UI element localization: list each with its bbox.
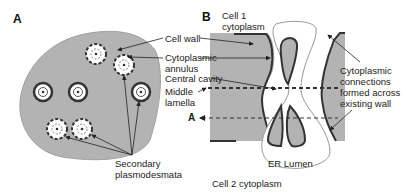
label-cytoplasmic-connections: Cytoplasmic connections formed across ex… — [340, 65, 400, 109]
label-line: plasmodesmata — [115, 169, 182, 180]
secondary-plasmodesma — [86, 44, 106, 64]
label-cell-1-cytoplasm: Cell 1 cytoplasm — [222, 10, 265, 32]
label-line: Cytoplasmic — [165, 52, 217, 63]
label-line: existing wall — [340, 98, 400, 109]
label-section-a: A — [188, 112, 195, 123]
label-line: lamella — [165, 97, 195, 108]
panel-a-letter: A — [13, 12, 22, 26]
label-cell-wall: Cell wall — [165, 33, 200, 44]
secondary-plasmodesma — [72, 119, 92, 139]
label-line: formed across — [340, 87, 400, 98]
panel-b-letter: B — [202, 10, 211, 24]
secondary-plasmodesma — [47, 119, 67, 139]
primary-plasmodesma — [34, 83, 52, 101]
label-secondary-plasmodesmata: Secondary plasmodesmata — [115, 158, 182, 180]
label-cytoplasmic-annulus: Cytoplasmic annulus — [165, 52, 217, 74]
secondary-plasmodesma — [114, 55, 134, 75]
label-middle-lamella: Middle lamella — [165, 86, 195, 108]
label-central-cavity: Central cavity — [165, 73, 223, 84]
label-line: connections — [340, 76, 400, 87]
primary-plasmodesma — [132, 83, 150, 101]
primary-plasmodesma — [69, 83, 87, 101]
label-line: Secondary — [115, 158, 182, 169]
label-line: Cell 1 — [222, 10, 265, 21]
label-line: Middle — [165, 86, 195, 97]
label-line: Cytoplasmic — [340, 65, 400, 76]
label-line: cytoplasm — [222, 21, 265, 32]
label-cell-2-cytoplasm: Cell 2 cytoplasm — [212, 178, 282, 189]
label-er-lumen: ER Lumen — [268, 158, 313, 169]
